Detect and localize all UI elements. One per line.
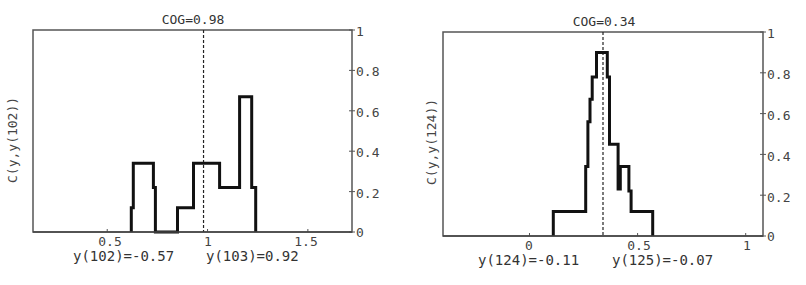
x-tick-label: 1 [204, 234, 212, 249]
y-tick-label: 0.4 [356, 145, 379, 160]
histogram-plot-left [0, 0, 400, 285]
y-tick-label: 0.2 [356, 186, 379, 201]
chart-title: COG=0.98 [162, 12, 225, 27]
y-axis-label: C(y,y(102)) [5, 97, 20, 183]
y-tick-label: 0.4 [767, 149, 790, 164]
caption-left: y(102)=-0.57 [73, 248, 174, 264]
y-tick-label: 0.6 [356, 105, 379, 120]
chart-panel-right: COG=0.34 C(y,y(124)) 1 0.8 0.6 0.4 0.2 0… [400, 0, 806, 285]
y-tick-label: 0.8 [356, 64, 379, 79]
histogram-step-line [131, 97, 255, 232]
y-tick-label: 0.8 [767, 67, 790, 82]
y-tick-label: 0.6 [767, 108, 790, 123]
x-tick-label: 0 [525, 238, 533, 253]
y-tick-label: 0 [356, 225, 364, 240]
chart-title: COG=0.34 [573, 14, 636, 29]
y-tick-label: 0.2 [767, 190, 790, 205]
y-tick-label: 0 [767, 229, 775, 244]
caption-left: y(124)=-0.11 [478, 252, 579, 268]
y-tick-label: 1 [767, 26, 775, 41]
chart-panel-left: COG=0.98 C(y,y(102)) 1 0.8 0.6 0.4 0.2 0… [0, 0, 400, 285]
y-axis-label: C(y,y(124)) [424, 99, 439, 185]
x-tick-label: 0.5 [98, 234, 121, 249]
caption-right: y(103)=0.92 [206, 248, 299, 264]
x-tick-label: 1 [743, 238, 751, 253]
caption-right: y(125)=-0.07 [612, 252, 713, 268]
x-tick-label: 1.5 [294, 234, 317, 249]
y-tick-label: 1 [356, 24, 364, 39]
x-tick-label: 0.5 [627, 238, 650, 253]
